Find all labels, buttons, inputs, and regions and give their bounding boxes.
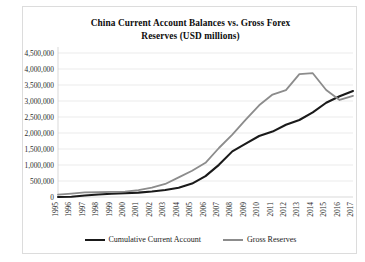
x-tick-label: 2008 xyxy=(225,202,234,217)
x-tick-label: 2003 xyxy=(158,202,167,217)
line-chart-plot: 4,500,0004,000,0003,500,0003,000,0002,50… xyxy=(23,7,358,255)
x-tick-label: 2012 xyxy=(279,202,288,217)
legend-entry: Gross Reserves xyxy=(223,235,297,244)
y-tick-label: 2,500,000 xyxy=(24,113,54,122)
legend-swatch xyxy=(223,239,243,241)
y-tick-label: 4,500,000 xyxy=(24,49,54,58)
chart-legend: Cumulative Current AccountGross Reserves xyxy=(23,235,358,244)
x-tick-label: 2004 xyxy=(172,202,181,217)
x-tick-label: 2017 xyxy=(346,202,355,217)
x-tick-label: 1997 xyxy=(78,202,87,217)
legend-label: Cumulative Current Account xyxy=(109,235,201,244)
x-tick-label: 2015 xyxy=(319,202,328,217)
x-tick-label: 2016 xyxy=(333,202,342,217)
x-tick-label: 1998 xyxy=(91,202,100,217)
y-tick-label: 500,000 xyxy=(30,177,54,186)
y-tick-label: 3,000,000 xyxy=(24,97,54,106)
x-axis-tick-labels: 1995199619971998199920002001200220032004… xyxy=(51,202,355,217)
x-tick-label: 2011 xyxy=(266,202,275,217)
x-tick-label: 1996 xyxy=(64,202,73,217)
x-tick-label: 2010 xyxy=(252,202,261,217)
y-tick-label: 1,000,000 xyxy=(24,161,54,170)
x-tick-label: 2006 xyxy=(199,202,208,217)
y-tick-label: 3,500,000 xyxy=(24,81,54,90)
legend-label: Gross Reserves xyxy=(247,235,297,244)
x-tick-label: 2005 xyxy=(185,202,194,217)
y-axis-tick-labels: 4,500,0004,000,0003,500,0003,000,0002,50… xyxy=(24,49,54,202)
x-tick-label: 2000 xyxy=(118,202,127,217)
data-series xyxy=(58,73,353,197)
x-tick-label: 2002 xyxy=(145,202,154,217)
legend-entry: Cumulative Current Account xyxy=(85,235,201,244)
y-tick-label: 4,000,000 xyxy=(24,65,54,74)
x-tick-label: 1999 xyxy=(105,202,114,217)
chart-card: China Current Account Balances vs. Gross… xyxy=(22,6,357,254)
y-tick-label: 1,500,000 xyxy=(24,145,54,154)
x-tick-label: 2014 xyxy=(306,202,315,217)
x-tick-label: 2001 xyxy=(131,202,140,217)
x-tick-label: 1995 xyxy=(51,202,60,217)
gridlines xyxy=(58,47,353,197)
legend-swatch xyxy=(85,239,105,241)
y-tick-label: 0 xyxy=(50,193,54,202)
y-tick-label: 2,000,000 xyxy=(24,129,54,138)
x-tick-label: 2007 xyxy=(212,202,221,217)
x-tick-label: 2013 xyxy=(292,202,301,217)
x-tick-label: 2009 xyxy=(239,202,248,217)
